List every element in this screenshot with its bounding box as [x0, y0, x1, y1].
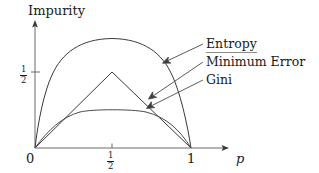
legend-label-entropy: Entropy	[206, 38, 257, 53]
curve-group	[35, 39, 191, 149]
axis-group	[32, 20, 229, 151]
fraction-one-half: 1 2	[107, 151, 114, 172]
x-tick-label-1: 1	[187, 152, 195, 165]
legend-label-minimum-error: Minimum Error	[206, 56, 305, 69]
fraction-numerator: 1	[107, 151, 114, 162]
fraction-denominator: 2	[107, 162, 114, 172]
x-tick-label-half: 1 2	[107, 151, 114, 172]
leader-arrowhead-minimum-error	[149, 92, 157, 99]
y-tick-label-half: 1 2	[20, 65, 27, 86]
fraction-denominator: 2	[20, 76, 27, 86]
impurity-measures-figure: Impurity p 0 1 2 1 1 2 Entropy Minimum E…	[0, 0, 319, 173]
x-axis-label: p	[236, 152, 244, 165]
fraction-numerator: 1	[20, 65, 27, 76]
leader-line-entropy	[167, 44, 203, 61]
curve-entropy	[35, 39, 191, 149]
x-tick-label-0: 0	[26, 152, 34, 165]
fraction-one-half: 1 2	[20, 65, 27, 86]
legend-label-gini: Gini	[206, 74, 232, 87]
plot-canvas	[0, 0, 319, 173]
leader-line-gini	[151, 80, 203, 106]
curve-gini	[35, 110, 191, 148]
y-axis-label: Impurity	[28, 4, 85, 17]
leader-arrow-group	[147, 44, 204, 108]
